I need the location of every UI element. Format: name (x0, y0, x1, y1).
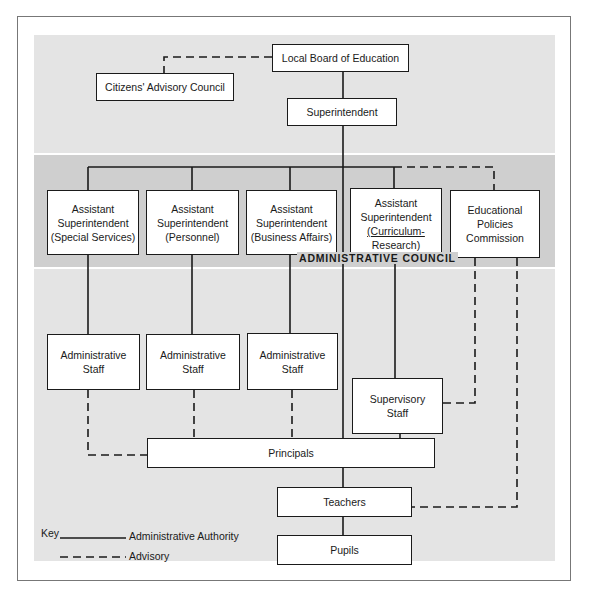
supervisory-staff-box: SupervisoryStaff (352, 378, 443, 434)
principals-box: Principals (147, 438, 435, 468)
asst-superintendent-curriculum-research-box: AssistantSuperintendent(Curriculum-Resea… (350, 188, 442, 260)
key-dashed-label: Advisory (129, 550, 169, 562)
administrative-staff-box-3: AdministrativeStaff (247, 333, 338, 390)
asst-superintendent-business-affairs-box: AssistantSuperintendent(Business Affairs… (246, 190, 337, 255)
administrative-council-label: ADMINISTRATIVE COUNCIL (297, 252, 458, 264)
pupils-box: Pupils (277, 535, 412, 565)
teachers-box: Teachers (277, 487, 412, 517)
key-title: Key (41, 527, 59, 539)
local-board-of-education-box: Local Board of Education (272, 44, 409, 72)
administrative-staff-box-2: AdministrativeStaff (146, 334, 240, 390)
citizens-advisory-council-box: Citizens' Advisory Council (96, 73, 234, 101)
asst-superintendent-special-services-box: AssistantSuperintendent(Special Services… (47, 190, 139, 255)
superintendent-box: Superintendent (287, 98, 397, 126)
educational-policies-commission-box: EducationalPoliciesCommission (450, 190, 540, 258)
asst-superintendent-personnel-box: AssistantSuperintendent(Personnel) (146, 190, 239, 255)
administrative-staff-box-1: AdministrativeStaff (47, 334, 140, 390)
key-solid-label: Administrative Authority (129, 530, 239, 542)
